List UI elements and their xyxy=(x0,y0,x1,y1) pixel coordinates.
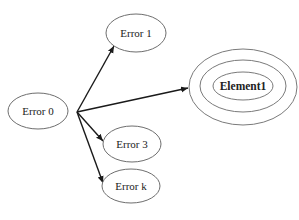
error-diagram: Error 0 Error 1 Element1 Error 3 Error k xyxy=(0,0,299,220)
node-error1-label: Error 1 xyxy=(120,27,151,39)
edge-error0-element1 xyxy=(77,88,188,112)
node-error0[interactable]: Error 0 xyxy=(8,93,68,129)
edge-error0-errork xyxy=(77,112,103,183)
node-element1[interactable]: Element1 xyxy=(189,49,297,125)
edge-error0-error3 xyxy=(77,112,103,141)
node-error3-label: Error 3 xyxy=(116,138,148,150)
edge-error0-error1 xyxy=(77,46,114,112)
node-error1[interactable]: Error 1 xyxy=(106,14,166,52)
node-error3[interactable]: Error 3 xyxy=(103,126,161,162)
node-element1-label: Element1 xyxy=(220,80,267,92)
node-errork-label: Error k xyxy=(115,180,147,192)
node-error0-label: Error 0 xyxy=(22,105,54,117)
node-errork[interactable]: Error k xyxy=(102,169,160,203)
